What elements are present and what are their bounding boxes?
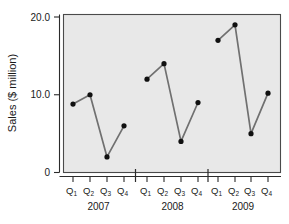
y-axis-title: Sales ($ million) — [6, 54, 18, 132]
chart-canvas: 20.010.00 Q1Q2Q3Q4Q1Q2Q3Q4Q1Q2Q3Q4 20072… — [0, 0, 289, 224]
x-label-main: Q — [191, 185, 198, 196]
x-label-subscript: 3 — [251, 190, 255, 197]
x-label-subscript: 4 — [198, 190, 202, 197]
x-label-subscript: 4 — [124, 190, 128, 197]
y-tick-label-20.0: 20.0 — [31, 12, 51, 23]
x-label-main: Q — [157, 185, 164, 196]
data-point-2009-Q1 — [215, 38, 220, 43]
data-point-2009-Q3 — [248, 131, 253, 136]
x-label-subscript: 3 — [107, 190, 111, 197]
x-label-subscript: 2 — [235, 190, 239, 197]
x-label-main: Q — [66, 185, 73, 196]
x-label-subscript: 2 — [90, 190, 94, 197]
x-label-subscript: 1 — [218, 190, 222, 197]
sales-time-series-chart: 20.010.00 Q1Q2Q3Q4Q1Q2Q3Q4Q1Q2Q3Q4 20072… — [0, 0, 289, 224]
x-label-main: Q — [117, 185, 124, 196]
data-point-2008-Q3 — [178, 139, 183, 144]
x-year-label-2007: 2007 — [87, 201, 110, 212]
x-label-main: Q — [174, 185, 181, 196]
x-year-label-2008: 2008 — [161, 201, 184, 212]
x-label-subscript: 2 — [164, 190, 168, 197]
x-label-subscript: 4 — [268, 190, 272, 197]
y-tick-label-10.0: 10.0 — [31, 89, 51, 100]
x-label-subscript: 1 — [147, 190, 151, 197]
data-point-2007-Q1 — [70, 101, 75, 106]
x-label-main: Q — [228, 185, 235, 196]
data-point-2009-Q2 — [232, 22, 237, 27]
data-point-2007-Q3 — [104, 154, 109, 159]
x-label-main: Q — [211, 185, 218, 196]
x-label-main: Q — [244, 185, 251, 196]
x-label-subscript: 3 — [181, 190, 185, 197]
x-label-main: Q — [140, 185, 147, 196]
data-point-2008-Q1 — [144, 77, 149, 82]
data-point-2007-Q2 — [87, 92, 92, 97]
data-point-2007-Q4 — [121, 123, 126, 128]
data-point-2008-Q2 — [161, 61, 166, 66]
y-tick-label-0: 0 — [44, 167, 50, 178]
data-point-2008-Q4 — [195, 100, 200, 105]
data-point-2009-Q4 — [265, 91, 270, 96]
x-year-label-2009: 2009 — [232, 201, 255, 212]
x-label-main: Q — [261, 185, 268, 196]
x-label-main: Q — [83, 185, 90, 196]
x-label-main: Q — [100, 185, 107, 196]
plot-area — [64, 15, 281, 173]
x-label-subscript: 1 — [73, 190, 77, 197]
